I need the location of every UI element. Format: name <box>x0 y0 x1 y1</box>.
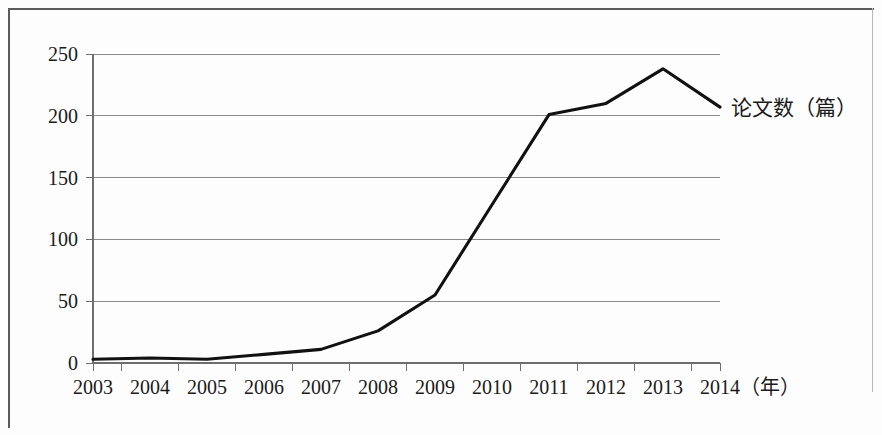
y-axis-tick-label: 250 <box>48 43 78 65</box>
y-axis-tick-labels-group: 050100150200250 <box>48 43 93 374</box>
x-axis-tick-label: 2009 <box>415 376 455 398</box>
y-axis-tick-label: 100 <box>48 228 78 250</box>
x-axis-tick-label: 2004 <box>130 376 170 398</box>
y-axis-tick-label: 0 <box>68 352 78 374</box>
y-axis-tick-label: 200 <box>48 105 78 127</box>
x-axis-tick-label: 2014 <box>700 376 740 398</box>
x-axis-tick-label: 2005 <box>187 376 227 398</box>
chart-page: 050100150200250 200320042005200620072008… <box>0 0 882 435</box>
x-axis-tick-label: 2012 <box>586 376 626 398</box>
x-axis-unit-label: （年） <box>740 376 800 398</box>
x-axis-tick-label: 2007 <box>301 376 341 398</box>
x-axis-tick-label: 2003 <box>73 376 113 398</box>
x-axis-tick-label: 2011 <box>529 376 568 398</box>
series-line-papers <box>93 69 720 359</box>
x-axis-tick-label: 2010 <box>472 376 512 398</box>
line-chart: 050100150200250 200320042005200620072008… <box>0 0 882 435</box>
y-axis-tick-label: 50 <box>58 290 78 312</box>
y-axis-tick-label: 150 <box>48 167 78 189</box>
series-legend-label: 论文数（篇） <box>731 96 857 120</box>
x-axis-tick-label: 2013 <box>643 376 683 398</box>
x-axis-ticks-group <box>93 363 720 371</box>
x-axis-tick-labels-group: 2003200420052006200720082009201020112012… <box>73 376 740 398</box>
x-axis-tick-label: 2008 <box>358 376 398 398</box>
x-axis-tick-label: 2006 <box>244 376 284 398</box>
